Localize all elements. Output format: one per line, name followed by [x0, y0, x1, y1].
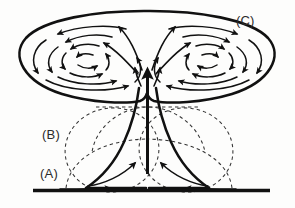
flow-diagram-svg: (A) (B) (C) — [0, 0, 295, 208]
convection-diagram: (A) (B) (C) — [0, 0, 295, 208]
label-region-b: (B) — [42, 127, 60, 142]
label-region-a: (A) — [40, 166, 58, 181]
label-region-c: (C) — [236, 13, 255, 28]
